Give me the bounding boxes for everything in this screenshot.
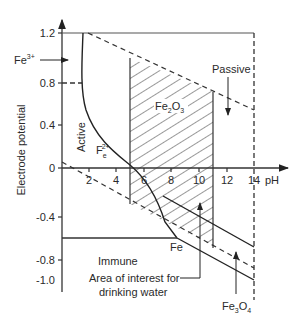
y-tick-1.2: 1.2 [40,27,55,39]
immune-label: Immune [98,255,138,267]
x-axis-label: pH [265,174,279,186]
y-tick-neg0.8: -0.8 [36,254,55,266]
y-tick-neg0.4: -0.4 [36,211,55,223]
fe3o4-label: Fe3O4 [222,300,251,314]
x-tick-10: 10 [193,174,205,186]
y-axis-label: Electrode potential [15,104,27,195]
interest-label-line2: drinking water [99,286,168,298]
x-tick-4: 4 [113,174,119,186]
x-tick-14: 14 [248,174,260,186]
pourbaix-diagram: 1.2 0.8 0.4 0 -0.4 -0.8 -1.0 2 4 6 8 10 … [0,0,303,322]
fe3-label: Fe3+ [14,53,35,66]
y-tick-0: 0 [49,162,55,174]
x-tick-2: 2 [86,174,92,186]
passive-label: Passive [212,63,251,75]
fe2-label: Fe2+ [96,143,110,159]
y-tick-0.8: 0.8 [40,77,55,89]
y-tick-neg1.0: -1.0 [36,274,55,286]
y-tick-0.4: 0.4 [40,119,55,131]
x-tick-12: 12 [221,174,233,186]
active-label: Active [75,122,87,152]
interest-label-line1: Area of interest for [89,272,180,284]
x-tick-6: 6 [141,174,147,186]
fe-label: Fe [170,241,183,253]
x-tick-8: 8 [168,174,174,186]
